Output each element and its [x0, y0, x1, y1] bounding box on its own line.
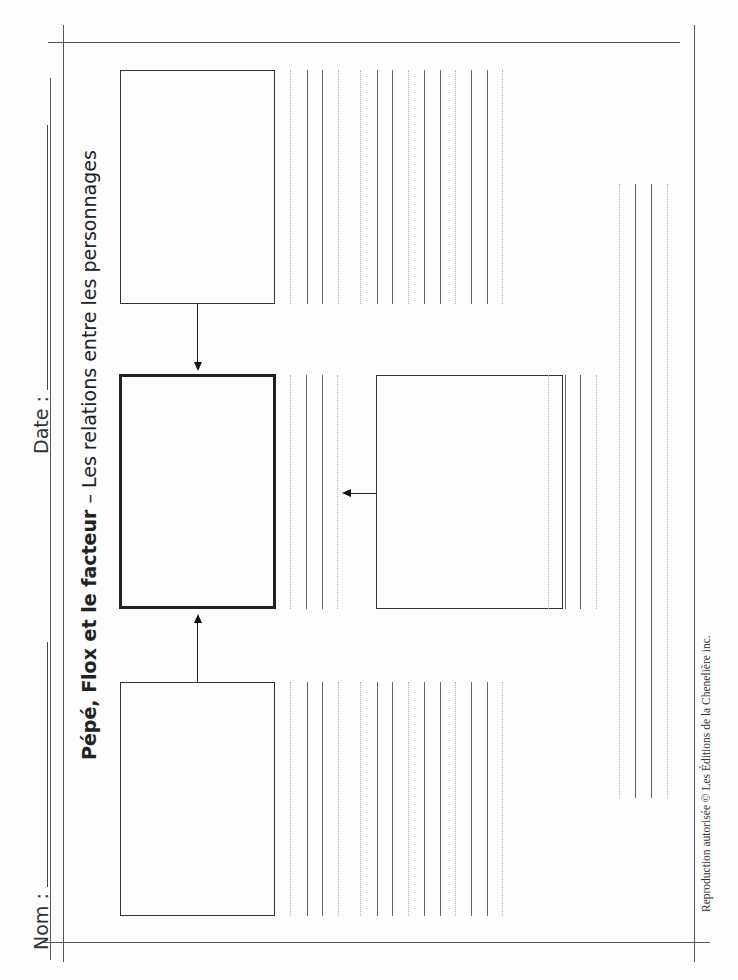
title-book-name: Pépé, Flox et le facteur: [78, 510, 100, 760]
frame-right-line: [694, 25, 695, 962]
frame-top-line: [48, 42, 680, 43]
name-blank[interactable]: [47, 642, 48, 887]
character-box-central[interactable]: [119, 374, 276, 609]
date-field[interactable]: Date :: [30, 125, 52, 460]
page-title: Pépé, Flox et le facteur – Les relations…: [78, 150, 100, 760]
date-label: Date :: [30, 396, 52, 454]
title-separator: –: [78, 488, 100, 510]
name-field[interactable]: Nom :: [30, 642, 52, 950]
copyright-notice: Reproduction autorisée © Les Éditions de…: [700, 635, 712, 912]
name-label: Nom :: [30, 893, 52, 950]
arrowhead-down-icon: [194, 362, 202, 371]
frame-bottom-line: [40, 942, 710, 943]
character-box-top[interactable]: [120, 70, 275, 304]
character-box-side[interactable]: [376, 375, 563, 609]
arrowhead-left-icon: [342, 489, 351, 497]
arrowhead-up-icon: [194, 614, 202, 623]
title-subject: Les relations entre les personnages: [78, 150, 100, 488]
character-box-bottom[interactable]: [120, 682, 275, 916]
frame-left-line: [63, 25, 64, 962]
date-blank[interactable]: [47, 125, 48, 390]
